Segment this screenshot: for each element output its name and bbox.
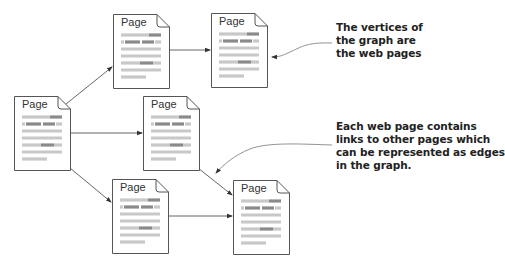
page-node: Page xyxy=(112,179,169,253)
edges-annotation: Each web page contains links to other pa… xyxy=(336,120,505,172)
page-label: Page xyxy=(241,182,267,194)
edge-p0-p4 xyxy=(70,168,111,202)
page-node: Page xyxy=(14,96,71,170)
vertices-annotation: The vertices of the graph are the web pa… xyxy=(336,21,423,60)
edge-p0-p1 xyxy=(66,67,112,104)
page-node: Page xyxy=(233,180,290,254)
page-label: Page xyxy=(22,98,48,110)
vertices-pointer xyxy=(272,43,332,57)
edge-p3-p5 xyxy=(198,168,232,195)
page-node: Page xyxy=(113,14,170,88)
page-label: Page xyxy=(219,15,245,27)
page-label: Page xyxy=(121,16,147,28)
page-node: Page xyxy=(143,96,200,170)
page-label: Page xyxy=(151,98,177,110)
page-label: Page xyxy=(120,181,146,193)
page-node: Page xyxy=(211,13,268,87)
edges-pointer xyxy=(216,144,332,173)
